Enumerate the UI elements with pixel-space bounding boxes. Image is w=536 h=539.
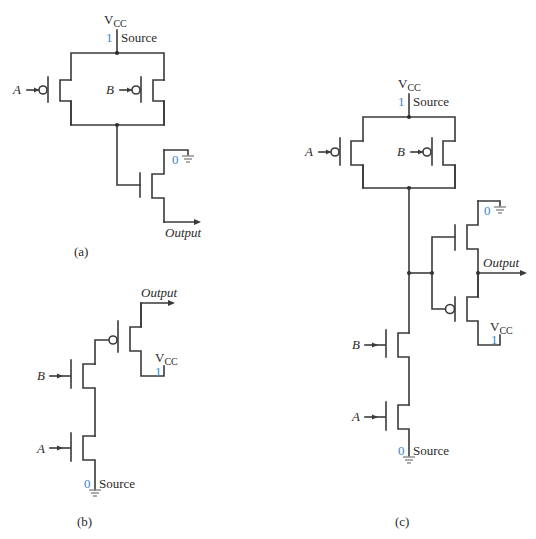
panel-b-input-a: A xyxy=(36,441,45,456)
panel-c-vcc-label: VCC xyxy=(398,76,421,93)
panel-a-vcc-label: VCC xyxy=(104,12,127,29)
panel-a-bottom-rail xyxy=(71,101,164,125)
panel-c-ground-logic: 0 xyxy=(398,443,405,458)
panel-c-input-a: A xyxy=(351,409,360,424)
panel-a-vcc-logic: 1 xyxy=(106,30,113,45)
panel-c-output-arrow-icon xyxy=(520,270,527,276)
panel-b-caption: (b) xyxy=(77,514,92,529)
panel-c-bottom-rail xyxy=(363,165,455,188)
panel-c-pmos-a: A xyxy=(304,138,363,188)
panel-c-input-b: B xyxy=(352,337,360,352)
panel-c-nmos-b: B xyxy=(352,330,409,405)
panel-a-input-b: B xyxy=(106,82,114,97)
panel-c-inverter-pmos: VCC 1 xyxy=(446,273,514,347)
panel-a-nmos: 0 xyxy=(140,150,194,222)
panel-c-source-label-bottom: Source xyxy=(413,443,449,458)
circuit-diagram: VCC 1 Source A B xyxy=(0,0,536,539)
panel-c-vcc-logic: 1 xyxy=(398,94,405,109)
panel-c-input-a-top: A xyxy=(304,144,313,159)
panel-a-input-a: A xyxy=(12,82,21,97)
panel-c-input-b-top: B xyxy=(397,144,405,159)
panel-a-gate-wire xyxy=(117,125,140,185)
panel-b-input-b: B xyxy=(37,368,45,383)
panel-a-ground-logic: 0 xyxy=(172,152,179,167)
panel-b-output-arrow-icon xyxy=(168,300,175,306)
panel-c-pmos-b: B xyxy=(397,138,455,188)
panel-a: VCC 1 Source A B xyxy=(12,12,202,259)
panel-a-junction-top xyxy=(115,51,119,55)
panel-a-pmos-a: A xyxy=(12,77,71,125)
panel-b-nmos-b: B xyxy=(37,360,95,436)
panel-c: VCC 1 Source A B xyxy=(304,76,527,529)
panel-b-pmos: VCC 1 xyxy=(95,303,178,379)
panel-c-inv-ground-logic: 0 xyxy=(484,203,491,218)
panel-c-top-rail xyxy=(363,117,455,141)
panel-c-inv-vcc-logic: 1 xyxy=(491,332,498,347)
panel-b-ground-logic: 0 xyxy=(84,476,91,491)
panel-c-inverter-nmos: 0 xyxy=(455,201,506,297)
panel-c-output-label: Output xyxy=(483,255,520,270)
panel-c-caption: (c) xyxy=(395,514,409,529)
panel-a-caption: (a) xyxy=(74,244,88,259)
panel-b-source-label: Source xyxy=(99,476,135,491)
panel-b-vcc-logic: 1 xyxy=(155,364,162,379)
panel-a-top-rail xyxy=(71,53,164,80)
panel-b: Output VCC 1 B A xyxy=(36,285,178,529)
panel-a-pmos-b: B xyxy=(106,77,164,125)
panel-a-source-label: Source xyxy=(121,30,157,45)
panel-c-source-label-top: Source xyxy=(413,94,449,109)
panel-c-junction-top xyxy=(407,115,411,119)
panel-b-output-label: Output xyxy=(141,285,178,300)
panel-a-output-label: Output xyxy=(165,225,202,240)
panel-b-output-wire xyxy=(141,303,169,327)
panel-c-inverter-gate-wire xyxy=(432,237,455,309)
